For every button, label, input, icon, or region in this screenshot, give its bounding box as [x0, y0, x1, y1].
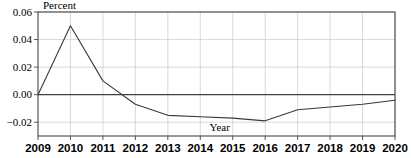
x-tick-label-2017: 2017 — [285, 142, 311, 154]
x-tick-label-2014: 2014 — [187, 142, 213, 154]
x-tick-label-2011: 2011 — [90, 142, 116, 154]
line-chart: 0.06 0.04 0.02 0.00 −0.02 2009 2010 2011… — [0, 0, 411, 158]
x-tick-label-2012: 2012 — [123, 142, 149, 154]
x-tick-label-2016: 2016 — [252, 142, 278, 154]
y-tick-label-0: 0.06 — [13, 6, 33, 18]
x-tick-label-2018: 2018 — [317, 142, 343, 154]
x-axis-title: Year — [210, 121, 231, 133]
x-tick-label-2015: 2015 — [220, 142, 246, 154]
x-tick-label-2009: 2009 — [25, 142, 51, 154]
y-tick-label-3: 0.00 — [13, 88, 33, 100]
x-axis-ticks — [38, 136, 395, 140]
x-tick-label-2010: 2010 — [58, 142, 84, 154]
y-tick-label-2: 0.02 — [13, 61, 32, 73]
y-axis-title: Percent — [43, 0, 76, 11]
chart-figure: 0.06 0.04 0.02 0.00 −0.02 2009 2010 2011… — [0, 0, 411, 158]
x-tick-label-2020: 2020 — [382, 142, 408, 154]
y-tick-label-4: −0.02 — [7, 116, 32, 128]
x-tick-label-2013: 2013 — [155, 142, 181, 154]
x-tick-label-2019: 2019 — [350, 142, 376, 154]
y-tick-label-1: 0.04 — [13, 33, 33, 45]
